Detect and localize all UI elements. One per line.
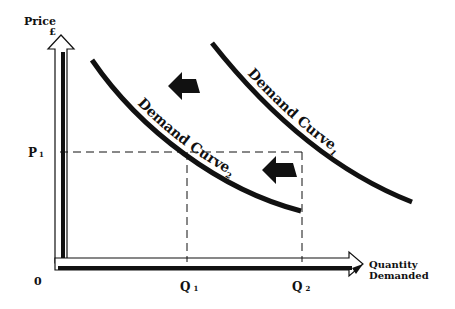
- shift-left-arrow-icon: [262, 156, 297, 184]
- x-axis-label-line1: Quantity: [369, 259, 419, 270]
- x-axis-label-line2: Demanded: [369, 270, 429, 281]
- q2-label: Q2: [292, 280, 310, 294]
- y-axis-unit: £: [49, 26, 56, 37]
- p1-label: P1: [28, 146, 44, 160]
- origin-label: 0: [34, 275, 42, 288]
- demand-curve-2-label: Demand Curve2: [135, 95, 234, 181]
- demand-curve-1-label: Demand Curve1: [245, 65, 339, 158]
- shift-left-arrow-icon: [168, 72, 200, 100]
- x-axis: [55, 252, 363, 276]
- q1-label: Q1: [180, 280, 198, 294]
- demand-shift-diagram: Demand Curve1 Demand Curve2 Price £ Quan…: [0, 0, 455, 309]
